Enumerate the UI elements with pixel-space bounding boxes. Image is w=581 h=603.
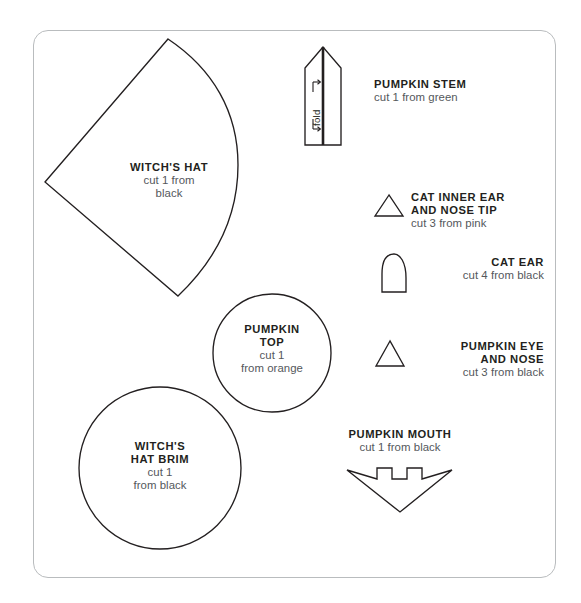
pumpkin-top-sub-1: cut 1 [212, 349, 332, 362]
label-pumpkin-mouth: PUMPKIN MOUTH cut 1 from black [320, 428, 480, 454]
pumpkin-top-sub-2: from orange [212, 362, 332, 375]
witchs-hat-brim-title-1: WITCH'S [100, 440, 220, 453]
cat-inner-ear-title-2: AND NOSE TIP [411, 204, 571, 217]
witchs-hat-title: WITCH'S HAT [108, 161, 230, 174]
witchs-hat-sub-2: black [108, 187, 230, 200]
cat-inner-ear-title-1: CAT INNER EAR [411, 191, 571, 204]
pumpkin-mouth-title: PUMPKIN MOUTH [320, 428, 480, 441]
cat-inner-ear-triangle-shape [375, 195, 403, 216]
cat-ear-title: CAT EAR [381, 256, 544, 269]
witchs-hat-brim-sub-2: from black [100, 479, 220, 492]
witchs-hat-brim-sub-1: cut 1 [100, 466, 220, 479]
label-pumpkin-eye-and-nose: PUMPKIN EYE AND NOSE cut 3 from black [381, 340, 544, 379]
pumpkin-stem-fold-label: fold [311, 109, 322, 126]
label-witchs-hat: WITCH'S HAT cut 1 from black [108, 161, 230, 200]
pumpkin-stem-title: PUMPKIN STEM [374, 78, 534, 91]
witchs-hat-brim-title-2: HAT BRIM [100, 453, 220, 466]
pumpkin-top-title-2: TOP [212, 336, 332, 349]
pumpkin-mouth-shape [347, 468, 452, 512]
cat-inner-ear-sub-1: cut 3 from pink [411, 217, 571, 230]
pumpkin-stem-sub-1: cut 1 from green [374, 91, 534, 104]
pumpkin-eye-sub-1: cut 3 from black [381, 366, 544, 379]
pumpkin-mouth-sub-1: cut 1 from black [320, 441, 480, 454]
label-pumpkin-stem: PUMPKIN STEM cut 1 from green [374, 78, 534, 104]
template-sheet-page: WITCH'S HAT cut 1 from black PUMPKIN STE… [0, 0, 581, 603]
label-witchs-hat-brim: WITCH'S HAT BRIM cut 1 from black [100, 440, 220, 492]
witchs-hat-sub-1: cut 1 from [108, 174, 230, 187]
pumpkin-top-title-1: PUMPKIN [212, 323, 332, 336]
pumpkin-eye-title-2: AND NOSE [381, 353, 544, 366]
label-pumpkin-top: PUMPKIN TOP cut 1 from orange [212, 323, 332, 375]
label-cat-ear: CAT EAR cut 4 from black [381, 256, 544, 282]
cat-ear-sub-1: cut 4 from black [381, 269, 544, 282]
label-cat-inner-ear: CAT INNER EAR AND NOSE TIP cut 3 from pi… [411, 191, 571, 230]
pumpkin-eye-title-1: PUMPKIN EYE [381, 340, 544, 353]
